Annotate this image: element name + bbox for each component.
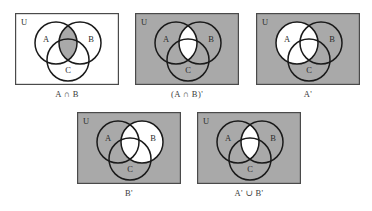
label-b: B bbox=[329, 34, 335, 44]
venn-svg-2: U A B C bbox=[135, 13, 239, 85]
venn-svg-3: U A B C bbox=[256, 13, 360, 85]
universe-label: U bbox=[21, 17, 27, 27]
universe-label: U bbox=[203, 116, 209, 126]
label-c: C bbox=[247, 164, 253, 174]
venn-panel-union-complements: U A B C bbox=[197, 112, 301, 184]
label-c: C bbox=[306, 65, 312, 75]
universe-label: U bbox=[141, 17, 147, 27]
label-b: B bbox=[208, 34, 214, 44]
label-c: C bbox=[65, 65, 71, 75]
caption-complement-a-intersect-b: (A ∩ B)' bbox=[135, 90, 239, 99]
venn-panel-complement-a: U A B C bbox=[256, 13, 360, 85]
label-c: C bbox=[127, 164, 133, 174]
venn-diagram-figure: U A B C A ∩ B U A B C (A ∩ B)' bbox=[0, 0, 372, 211]
label-a: A bbox=[284, 34, 291, 44]
venn-panel-a-intersect-b: U A B C bbox=[15, 13, 119, 85]
label-b: B bbox=[150, 133, 156, 143]
caption-complement-a: A' bbox=[256, 90, 360, 99]
venn-panel-complement-a-intersect-b: U A B C bbox=[135, 13, 239, 85]
caption-complement-b: B' bbox=[77, 189, 181, 198]
label-b: B bbox=[270, 133, 276, 143]
label-a: A bbox=[163, 34, 170, 44]
caption-a-intersect-b: A ∩ B bbox=[15, 90, 119, 99]
venn-svg-4: U A B C bbox=[77, 112, 181, 184]
caption-union-complements: A' ∪ B' bbox=[197, 189, 301, 198]
label-a: A bbox=[105, 133, 112, 143]
venn-svg-5: U A B C bbox=[197, 112, 301, 184]
label-a: A bbox=[225, 133, 232, 143]
universe-label: U bbox=[83, 116, 89, 126]
label-b: B bbox=[88, 34, 94, 44]
universe-label: U bbox=[262, 17, 268, 27]
venn-svg-1: U A B C bbox=[15, 13, 119, 85]
label-a: A bbox=[43, 34, 50, 44]
venn-panel-complement-b: U A B C bbox=[77, 112, 181, 184]
label-c: C bbox=[185, 65, 191, 75]
